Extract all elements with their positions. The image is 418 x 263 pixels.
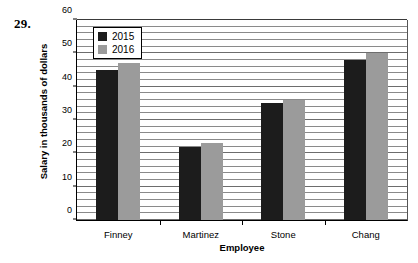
legend-label: 2015	[112, 31, 134, 42]
bar-finney-2015	[96, 70, 118, 220]
chart-legend: 20152016	[93, 27, 142, 59]
x-tick-label-stone: Stone	[271, 229, 296, 240]
y-axis-title: Salary in thousands of dollars	[38, 37, 49, 187]
y-tick-label: 0	[67, 205, 72, 215]
x-tick-mark	[242, 220, 243, 225]
legend-item-2016: 2016	[98, 44, 134, 55]
bar-stone-2016	[283, 100, 305, 220]
x-tick-mark	[325, 220, 326, 225]
x-tick-mark	[160, 220, 161, 225]
plot-inner: 0102030405060 FinneyMartinezStoneChang 2…	[77, 20, 407, 220]
problem-number: 29.	[14, 16, 31, 32]
y-tick-label: 60	[62, 5, 72, 15]
x-tick-label-chang: Chang	[352, 229, 380, 240]
bar-group	[325, 20, 408, 220]
bar-chart-figure: Salary in thousands of dollars 010203040…	[56, 14, 408, 256]
legend-swatch-icon	[98, 45, 107, 54]
bar-martinez-2015	[179, 147, 201, 220]
y-tick-label: 20	[62, 138, 72, 148]
bar-chang-2015	[344, 60, 366, 220]
plot-area: 0102030405060 FinneyMartinezStoneChang 2…	[76, 20, 408, 221]
y-tick-label: 30	[62, 105, 72, 115]
bar-stone-2015	[261, 103, 283, 220]
legend-item-2015: 2015	[98, 31, 134, 42]
legend-label: 2016	[112, 44, 134, 55]
bar-group	[160, 20, 243, 220]
x-axis-title: Employee	[76, 242, 408, 253]
y-tick-label: 50	[62, 38, 72, 48]
x-tick-label-martinez: Martinez	[183, 229, 219, 240]
y-tick-label: 40	[62, 72, 72, 82]
bar-chang-2016	[366, 53, 388, 220]
bar-group	[242, 20, 325, 220]
bar-finney-2016	[118, 63, 140, 220]
y-tick-label: 10	[62, 172, 72, 182]
legend-swatch-icon	[98, 32, 107, 41]
bar-martinez-2016	[201, 143, 223, 220]
x-tick-label-finney: Finney	[104, 229, 133, 240]
